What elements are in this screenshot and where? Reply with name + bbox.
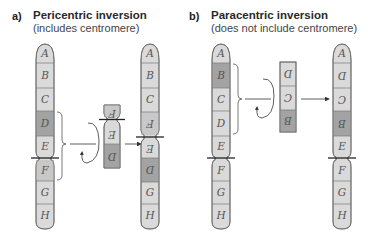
segment-c-label: C	[41, 93, 49, 105]
brace-icon	[57, 112, 66, 180]
segment-b-label: B	[216, 69, 225, 81]
segment-d-label: D	[216, 117, 226, 129]
segment-f-label: F	[216, 164, 225, 176]
segment-f-label: F	[337, 164, 346, 176]
segment-g-label: G	[217, 186, 225, 198]
segment-c-inverted-label: C	[338, 94, 346, 106]
segment-e-label: E	[216, 140, 225, 152]
segment-h-label: H	[215, 209, 226, 221]
rotation-arrow-icon	[257, 79, 274, 118]
segment-f-inverted-label: F	[108, 108, 117, 120]
segment-f-label: F	[40, 164, 49, 176]
segment-e-label: E	[337, 140, 346, 152]
segment-d-inverted-label: D	[145, 164, 155, 176]
segment-f-inverted-label: F	[146, 118, 155, 130]
segment-e-inverted-label: E	[108, 129, 117, 141]
segment-g-label: G	[338, 186, 346, 198]
inverted-fragment-b: D C B	[280, 62, 296, 132]
segment-g-label: G	[41, 186, 49, 198]
segment-a-label: A	[216, 47, 225, 59]
segment-c-label: C	[217, 93, 225, 105]
segment-a-label: A	[40, 47, 49, 59]
segment-h-label: H	[144, 209, 155, 221]
segment-b-inverted-label: B	[284, 115, 293, 127]
segment-a-label: A	[337, 47, 346, 59]
segment-e-label: E	[40, 140, 49, 152]
segment-a-label: A	[145, 47, 154, 59]
segment-g-label: G	[146, 186, 154, 198]
inversion-diagram: A B C D E F G H F E D	[0, 0, 372, 247]
brace-icon	[233, 64, 242, 134]
segment-h-label: H	[39, 209, 50, 221]
segment-d-inverted-label: D	[107, 151, 117, 163]
segment-e-inverted-label: E	[146, 143, 155, 155]
segment-b-label: B	[145, 69, 154, 81]
segment-b-label: B	[40, 69, 49, 81]
inverted-fragment-a: F E D	[99, 105, 125, 168]
chromosome-b-result: A D C B E F G H	[328, 44, 356, 229]
segment-d-inverted-label: D	[283, 68, 293, 80]
segment-b-inverted-label: B	[338, 118, 347, 130]
chromosome-a-result: A B C F E D G H	[136, 44, 164, 229]
segment-h-label: H	[336, 209, 347, 221]
chromosome-a-original: A B C D E F G H	[31, 44, 59, 229]
segment-d-label: D	[40, 117, 50, 129]
rotation-arrow-icon	[82, 123, 99, 163]
segment-c-inverted-label: C	[284, 92, 292, 104]
segment-c-label: C	[146, 93, 154, 105]
chromosome-b-original: A B C D E F G H	[207, 44, 235, 229]
segment-d-inverted-label: D	[337, 70, 347, 82]
